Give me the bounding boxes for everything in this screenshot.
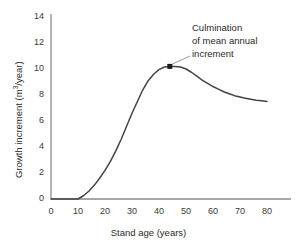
y-tick-8: 8 — [22, 90, 44, 99]
y-axis-title: Growth increment (m3/year) — [14, 61, 24, 178]
x-tick-10: 10 — [64, 207, 92, 216]
y-tick-0: 0 — [22, 194, 44, 203]
y-axis-title-suffix: /year) — [13, 61, 24, 85]
y-tick-14: 14 — [22, 12, 44, 21]
x-tick-60: 60 — [199, 207, 227, 216]
y-axis-title-superscript: 3 — [12, 86, 19, 90]
culmination-point-marker — [167, 64, 172, 69]
x-tick-30: 30 — [118, 207, 146, 216]
x-tick-40: 40 — [145, 207, 173, 216]
y-axis-title-prefix: Growth increment (m — [13, 89, 24, 178]
x-tick-0: 0 — [37, 207, 65, 216]
annotation-line-1: Culmination — [192, 23, 242, 33]
annotation-line-2: of mean annual — [192, 36, 258, 46]
annotation-line-3: increment — [192, 49, 234, 59]
x-tick-50: 50 — [172, 207, 200, 216]
y-tick-6: 6 — [22, 116, 44, 125]
x-tick-20: 20 — [91, 207, 119, 216]
annotation-leader-line — [172, 56, 190, 64]
y-tick-10: 10 — [22, 64, 44, 73]
y-tick-12: 12 — [22, 38, 44, 47]
x-axis-title: Stand age (years) — [0, 228, 297, 238]
x-tick-80: 80 — [253, 207, 281, 216]
y-tick-4: 4 — [22, 142, 44, 151]
x-tick-70: 70 — [226, 207, 254, 216]
growth-increment-curve — [51, 66, 267, 199]
y-tick-2: 2 — [22, 168, 44, 177]
